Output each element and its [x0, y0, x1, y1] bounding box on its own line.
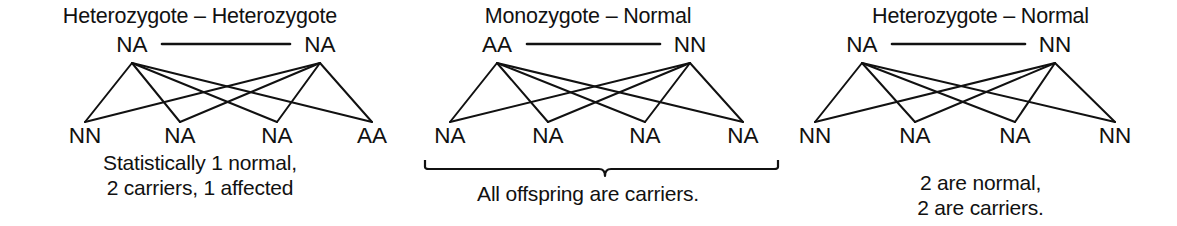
parent-genotype-label: AA — [482, 32, 512, 57]
offspring-genotype-label: NA — [999, 123, 1030, 148]
offspring-genotype-label: NA — [899, 123, 930, 148]
parent-genotype-label: NN — [1039, 32, 1072, 57]
panel-caption: 2 are normal, 2 are carriers. — [784, 170, 1177, 220]
descent-line — [85, 63, 132, 122]
parent-genotype-label: NN — [674, 32, 707, 57]
parent-genotype-label: NA — [116, 32, 147, 57]
cross-panel-heterozygote-heterozygote: Heterozygote – Heterozygote NA NA NN NA … — [0, 0, 400, 226]
descent-line — [497, 63, 548, 122]
panel-caption: All offspring are carriers. — [392, 181, 784, 206]
panel-caption: Statistically 1 normal, 2 carriers, 1 af… — [0, 150, 400, 200]
cross-panel-monozygote-normal: Monozygote – Normal AA NN NA NA NA NA Al… — [392, 0, 784, 226]
parent-genotype-label: NA — [846, 32, 877, 57]
offspring-genotype-label: NA — [532, 123, 563, 148]
offspring-genotype-label: NA — [261, 123, 292, 148]
offspring-genotype-label: NA — [727, 123, 758, 148]
offspring-genotype-label: NA — [434, 123, 465, 148]
offspring-genotype-label: NA — [164, 123, 195, 148]
figure-canvas: Heterozygote – Heterozygote NA NA NN NA … — [0, 0, 1177, 226]
cross-panel-heterozygote-normal: Heterozygote – Normal NA NN NN NA NA NN … — [784, 0, 1177, 226]
offspring-genotype-label: NN — [1099, 123, 1132, 148]
offspring-genotype-label: AA — [357, 123, 387, 148]
offspring-genotype-label: NN — [799, 123, 832, 148]
descent-line — [690, 63, 743, 122]
offspring-grouping-brace — [425, 160, 778, 176]
descent-line — [862, 63, 1115, 122]
offspring-genotype-label: NN — [69, 123, 102, 148]
descent-line — [1055, 63, 1115, 122]
descent-line — [862, 63, 915, 122]
descent-line — [320, 63, 372, 122]
parent-genotype-label: NA — [304, 32, 335, 57]
offspring-genotype-label: NA — [629, 123, 660, 148]
